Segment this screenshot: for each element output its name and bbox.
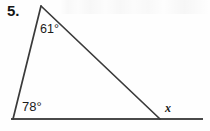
angle-label-apex: 61°: [40, 22, 59, 36]
angle-label-exterior-x: x: [165, 102, 171, 115]
worksheet-figure-page: 5. 61° 78° x: [0, 0, 210, 131]
angle-label-base-left: 78°: [22, 100, 42, 114]
problem-number: 5.: [7, 2, 19, 20]
